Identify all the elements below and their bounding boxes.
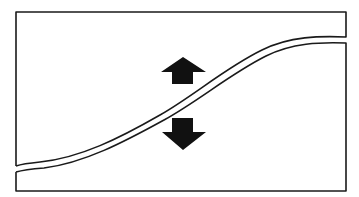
arrow-up-icon xyxy=(161,57,206,84)
arrow-down-icon xyxy=(162,118,206,150)
diagram-svg xyxy=(0,0,359,197)
diagram-canvas xyxy=(0,0,359,197)
